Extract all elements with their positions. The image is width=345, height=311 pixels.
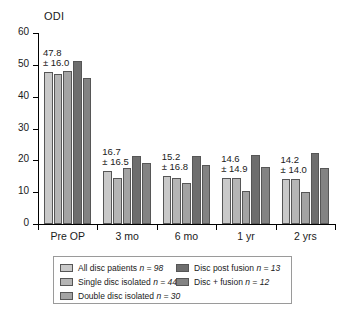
bar-1[interactable] <box>282 179 291 224</box>
x-axis-label: 2 yrs <box>276 230 335 242</box>
bar-2[interactable] <box>291 179 300 224</box>
legend-label: Disc post fusion n = 13 <box>194 263 280 273</box>
x-axis-line <box>38 224 335 225</box>
bar-1[interactable] <box>163 176 172 224</box>
legend-swatch <box>176 264 189 272</box>
bar-4[interactable] <box>132 156 141 224</box>
legend-left-item[interactable]: Single disc isolated n = 44 <box>60 275 180 288</box>
bar-value-annotation: 16.7± 16.5 <box>102 147 128 168</box>
bar-4[interactable] <box>251 155 260 224</box>
bar-group <box>103 33 151 224</box>
annotation-sd: ± 16.8 <box>162 162 188 173</box>
annotation-sd: ± 16.5 <box>102 157 128 168</box>
legend-right-item[interactable]: Disc + fusion n = 12 <box>176 275 280 288</box>
bar-5[interactable] <box>83 78 92 224</box>
bar-3[interactable] <box>123 168 132 224</box>
legend: All disc patients n = 98Single disc isol… <box>53 256 292 304</box>
legend-column-left: All disc patients n = 98Single disc isol… <box>60 261 180 303</box>
x-axis-tick <box>38 224 39 230</box>
x-axis-label: 1 yr <box>216 230 275 242</box>
x-axis-label: Pre OP <box>38 230 97 242</box>
bar-5[interactable] <box>320 168 329 224</box>
bar-1[interactable] <box>103 171 112 224</box>
bar-3[interactable] <box>63 71 72 224</box>
bar-value-annotation: 15.2± 16.8 <box>162 152 188 173</box>
y-axis-title: ODI <box>44 10 64 22</box>
bar-3[interactable] <box>242 191 251 224</box>
x-axis-tick <box>335 224 336 230</box>
annotation-sd: ± 16.0 <box>43 58 69 69</box>
bar-value-annotation: 14.6± 14.9 <box>221 154 247 175</box>
bar-value-annotation: 47.8± 16.0 <box>43 48 69 69</box>
bar-group <box>282 33 330 224</box>
odi-bar-chart: ODI 6050403020100 Pre OP3 mo6 mo1 yr2 yr… <box>0 0 345 311</box>
bar-group <box>163 33 211 224</box>
bar-2[interactable] <box>172 178 181 224</box>
legend-right-item[interactable]: Disc post fusion n = 13 <box>176 261 280 274</box>
bar-3[interactable] <box>301 192 310 224</box>
legend-label: Double disc isolated n = 30 <box>78 291 180 301</box>
bar-5[interactable] <box>261 167 270 224</box>
legend-label: Single disc isolated n = 44 <box>78 277 177 287</box>
bar-1[interactable] <box>222 178 231 224</box>
y-tick-label: 30 <box>18 122 29 133</box>
bar-3[interactable] <box>182 183 191 224</box>
legend-swatch <box>60 292 73 300</box>
x-axis-tick <box>276 224 277 230</box>
y-tick-label: 10 <box>18 185 29 196</box>
y-tick-label: 0 <box>23 217 29 228</box>
bar-5[interactable] <box>142 163 151 224</box>
legend-swatch <box>60 264 73 272</box>
bar-4[interactable] <box>311 153 320 224</box>
x-axis-tick <box>157 224 158 230</box>
annotation-sd: ± 14.9 <box>221 164 247 175</box>
bar-4[interactable] <box>192 156 201 224</box>
bar-group-bars <box>103 33 151 224</box>
bar-4[interactable] <box>73 61 82 224</box>
bar-group-bars <box>222 33 270 224</box>
x-axis-label: 6 mo <box>157 230 216 242</box>
legend-label: Disc + fusion n = 12 <box>194 277 269 287</box>
y-tick-label: 60 <box>18 26 29 37</box>
x-axis-tick <box>97 224 98 230</box>
bar-5[interactable] <box>202 165 211 224</box>
bar-2[interactable] <box>54 74 63 224</box>
bar-2[interactable] <box>232 178 241 224</box>
legend-left-item[interactable]: All disc patients n = 98 <box>60 261 180 274</box>
y-tick-label: 20 <box>18 153 29 164</box>
legend-swatch <box>60 278 73 286</box>
bar-group-bars <box>282 33 330 224</box>
bar-group-bars <box>163 33 211 224</box>
bar-2[interactable] <box>113 178 122 224</box>
plot-area <box>38 33 335 224</box>
bar-group <box>222 33 270 224</box>
y-tick-label: 50 <box>18 58 29 69</box>
legend-left-item[interactable]: Double disc isolated n = 30 <box>60 289 180 302</box>
legend-swatch <box>176 278 189 286</box>
x-axis-label: 3 mo <box>97 230 156 242</box>
bar-value-annotation: 14.2± 14.0 <box>281 155 307 176</box>
bar-1[interactable] <box>44 72 53 224</box>
legend-label: All disc patients n = 98 <box>78 263 163 273</box>
legend-column-right: Disc post fusion n = 13Disc + fusion n =… <box>176 261 280 289</box>
y-tick-label: 40 <box>18 90 29 101</box>
annotation-sd: ± 14.0 <box>281 165 307 176</box>
x-axis-tick <box>216 224 217 230</box>
